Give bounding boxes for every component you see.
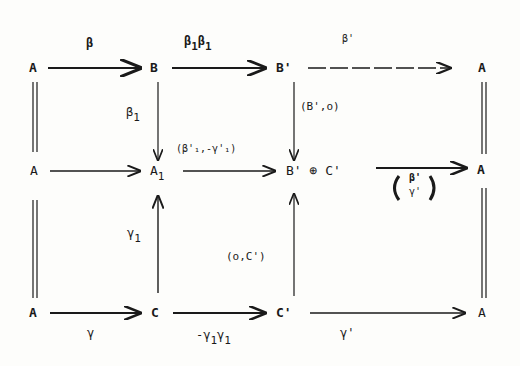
node-a: A: [29, 60, 37, 75]
node-a: A: [478, 60, 486, 75]
label-b-prime-zero: (B',o): [300, 100, 340, 113]
node-a: A: [30, 163, 38, 178]
label-beta: β: [86, 36, 93, 50]
node-b: B: [150, 60, 158, 75]
label-pair: (β'₁,-γ'₁): [176, 143, 236, 154]
node-a1: A1: [150, 163, 164, 178]
label-gamma-prime: γ': [340, 326, 354, 340]
right-paren: [430, 176, 434, 200]
label-column-top: β': [409, 172, 421, 183]
commutative-diagram: A B B' A A A1 B' ⊕ C' A A C C' A β β1β1 …: [0, 0, 520, 366]
label-beta1-beta1p: β1β1: [184, 34, 212, 48]
node-a: A: [478, 305, 486, 320]
node-b-prime: B': [276, 60, 292, 75]
label-gamma1: γ1: [127, 226, 141, 240]
node-a: A: [29, 305, 37, 320]
label-column-bottom: γ': [409, 186, 421, 197]
label-beta-prime: β': [342, 33, 354, 44]
label-beta1: β1: [126, 105, 140, 119]
node-a: A: [477, 162, 485, 177]
left-paren: [395, 176, 400, 200]
label-zero-c-prime: (o,C'): [226, 250, 266, 263]
node-c-prime: C': [276, 305, 292, 320]
node-c: C: [151, 305, 159, 320]
arrows-layer: [0, 0, 520, 366]
node-direct-sum: B' ⊕ C': [286, 163, 341, 178]
label-neg-gamma1-gamma1p: -γ1γ1: [196, 328, 231, 342]
label-gamma: γ: [87, 326, 94, 340]
